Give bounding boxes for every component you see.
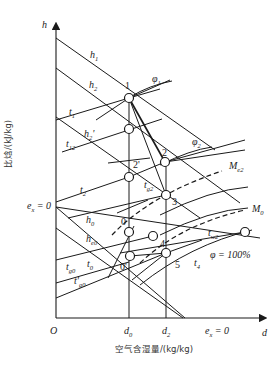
Me2-label: Me2 xyxy=(229,161,243,174)
point-2prime xyxy=(125,173,134,182)
point-1 xyxy=(125,94,134,103)
point-label-2: 2 xyxy=(162,148,167,158)
t0-line xyxy=(56,236,153,260)
tw2-label: tw2 xyxy=(208,228,218,241)
point-h2prime xyxy=(125,125,134,134)
point-2 xyxy=(161,158,170,167)
point-3 xyxy=(162,191,171,200)
h1-label: h1 xyxy=(90,50,98,63)
ex-zero-x-label: ex = 0 xyxy=(205,326,229,339)
tick-d0: d0 xyxy=(124,326,132,339)
t1-label: t1 xyxy=(69,107,75,120)
M0-label: M0 xyxy=(252,204,264,217)
tg0prime-line xyxy=(56,253,166,298)
t12-line xyxy=(62,119,162,152)
point-label-1: 1 xyxy=(125,81,130,91)
point-label-2prime: 2' xyxy=(133,160,140,170)
point-label-0: 0 xyxy=(121,217,126,227)
tick-d2: d2 xyxy=(162,326,170,339)
phi2-label: φ2 xyxy=(192,137,201,150)
x-axis-label: 空气含湿量/(kg/kg) xyxy=(115,345,193,354)
phi1-label: φ1 xyxy=(152,74,161,87)
ex-zero-y-label: ex = 0 xyxy=(27,201,51,214)
point-0 xyxy=(125,228,134,237)
point-right xyxy=(241,228,250,237)
line-1-2 xyxy=(129,98,165,162)
y-axis-label: 比焓/(kJ/kg) xyxy=(4,120,13,168)
t2-line xyxy=(56,177,129,202)
he0-label: he0 xyxy=(86,234,97,247)
tg2-label: tg2 xyxy=(144,180,153,193)
h2-label: h2 xyxy=(89,80,97,93)
t12-label: t12 xyxy=(66,139,75,152)
origin-label: O xyxy=(50,326,57,336)
cross-line2 xyxy=(117,200,148,213)
point-label-3: 3 xyxy=(172,197,177,207)
point-0prime xyxy=(126,252,135,261)
point-label-0prime: 0' xyxy=(120,262,127,272)
point-label-5: 5 xyxy=(175,260,180,270)
y-axis-symbol: h xyxy=(42,20,47,30)
tg0prime-label: t'g0 xyxy=(74,276,85,289)
tg0-label: tg0 xyxy=(66,262,75,275)
h2prime-label: h2' xyxy=(84,129,94,142)
x-axis-symbol: d xyxy=(262,328,267,338)
t4-label: t4 xyxy=(194,258,200,271)
point-label-4: 4 xyxy=(160,239,165,249)
t1-line xyxy=(56,98,129,120)
t0-label: t0 xyxy=(87,259,93,272)
tg2-line xyxy=(68,195,166,218)
point-4 xyxy=(162,249,171,258)
h0-label: h0 xyxy=(86,215,94,228)
line-0prime-cross xyxy=(132,253,166,280)
t2-label: t2 xyxy=(80,185,86,198)
phi100-label: φ = 100% xyxy=(210,250,251,260)
point-aux xyxy=(149,232,158,241)
psychrometric-chart xyxy=(0,0,278,365)
